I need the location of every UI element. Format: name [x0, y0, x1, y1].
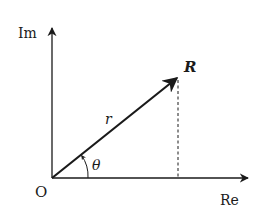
vector-r [52, 78, 177, 178]
vector-tip-label: R [183, 58, 196, 76]
re-axis-label: Re [220, 192, 239, 208]
im-axis-label: Im [18, 25, 37, 41]
magnitude-label: r [105, 111, 113, 127]
origin-label: O [35, 183, 47, 201]
angle-arc [82, 155, 89, 178]
complex-plane-diagram: Im Re O R r θ [0, 0, 262, 218]
angle-label: θ [92, 157, 101, 173]
